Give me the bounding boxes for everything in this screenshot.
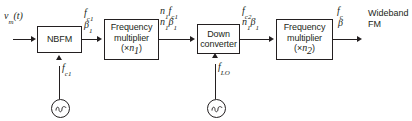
wire-dc-to-mult2: [240, 39, 270, 40]
beta1b-sub: 1: [173, 24, 177, 32]
mult1-suffix: ): [139, 43, 142, 53]
beta-var: β: [338, 17, 343, 28]
block-mult2-line1: Frequency: [284, 22, 326, 33]
block-down-converter[interactable]: Down converter: [197, 24, 240, 54]
arrowhead-mult2-in: [269, 36, 274, 42]
flo-sub: LO: [221, 69, 230, 77]
signal-label-after-mult1-freq: n1fc1: [160, 6, 178, 16]
arrowhead-input: [31, 36, 36, 42]
wire-local-osc: [215, 64, 216, 99]
signal-label-after-dc-beta: n1β1: [242, 17, 259, 27]
signal-label-output-beta: β: [338, 18, 343, 28]
arrowhead-dc-in: [190, 36, 195, 42]
block-nbfm-label: NBFM: [47, 34, 72, 45]
mult2-prefix: (×: [294, 43, 302, 53]
arrowhead-output: [357, 36, 362, 42]
block-frequency-multiplier-1[interactable]: Frequency multiplier (×n1): [104, 19, 159, 60]
arrowhead-nbfm-osc-in: [56, 55, 62, 60]
block-mult1-factor: (×n1): [121, 43, 142, 56]
arrowhead-dc-osc-in: [212, 53, 218, 58]
wire-carrier-osc: [59, 66, 60, 99]
input-suffix: (t): [14, 10, 23, 21]
signal-label-after-dc-freq: fc2: [242, 6, 251, 16]
n1-prefix-beta2-sub: 1: [247, 24, 251, 32]
carrier-oscillator-icon[interactable]: [51, 99, 70, 118]
local-osc-label: fLO: [218, 62, 230, 72]
wire-mult1-to-dc: [159, 39, 191, 40]
n1-prefix-beta-sub: 1: [165, 24, 169, 32]
beta1-sub: 1: [89, 27, 93, 35]
block-frequency-multiplier-2[interactable]: Frequency multiplier (×n2): [276, 19, 333, 60]
output-line2: FM: [368, 19, 409, 30]
arrowhead-mult1-in: [97, 36, 102, 42]
mult2-suffix: ): [312, 43, 315, 53]
wire-input: [13, 39, 32, 40]
output-label: Wideband FM: [368, 8, 409, 30]
signal-label-output-freq: fc: [337, 6, 343, 16]
beta1c-sub: 1: [255, 24, 259, 32]
mult1-prefix: (×: [121, 43, 129, 53]
signal-label-after-nbfm-beta: β1: [84, 20, 92, 30]
block-nbfm[interactable]: NBFM: [37, 26, 82, 53]
carrier-osc-label: fc1: [62, 63, 71, 73]
input-signal-label: vm(t): [4, 11, 23, 21]
block-dc-line2: converter: [200, 39, 237, 50]
signal-label-after-mult1-beta: n1β1: [160, 17, 177, 27]
output-line1: Wideband: [368, 8, 409, 19]
local-oscillator-icon[interactable]: [207, 99, 226, 118]
wire-output: [333, 39, 358, 40]
signal-label-after-nbfm-freq: fc1: [84, 8, 93, 18]
input-sub: m: [8, 18, 13, 26]
wire-nbfm-to-mult1: [82, 39, 98, 40]
fc1-osc-sub: c1: [65, 70, 72, 78]
fm-block-diagram: vm(t) NBFM fc1 β1 Frequency multiplier (…: [0, 0, 412, 121]
block-mult2-factor: (×n2): [294, 43, 315, 56]
block-dc-line1: Down: [207, 29, 230, 40]
block-mult1-line1: Frequency: [111, 22, 153, 33]
